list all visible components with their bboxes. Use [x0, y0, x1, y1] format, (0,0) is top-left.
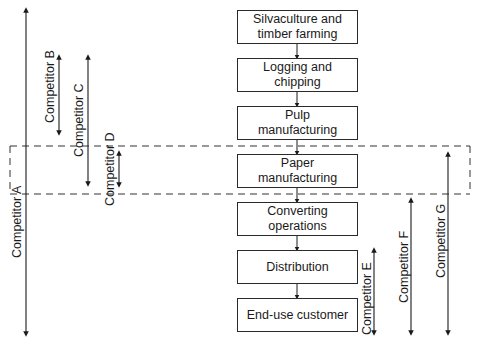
- competitor-f-label: Competitor F: [397, 231, 411, 303]
- stage-label: Logging and: [263, 60, 332, 75]
- stage-end-use-customer: End-use customer: [237, 298, 358, 332]
- stage-paper: Papermanufacturing: [237, 154, 358, 188]
- stage-label: Converting: [267, 204, 327, 219]
- competitor-c-label: Competitor C: [72, 83, 86, 157]
- stage-label: Paper: [258, 156, 337, 171]
- competitor-g-label: Competitor G: [434, 204, 448, 278]
- stage-label: operations: [267, 219, 327, 234]
- stage-converting: Convertingoperations: [237, 202, 358, 236]
- stage-pulp: Pulpmanufacturing: [237, 106, 358, 140]
- stage-label: manufacturing: [258, 123, 337, 138]
- stage-label: Distribution: [266, 260, 329, 275]
- stage-label: Pulp: [258, 108, 337, 123]
- stage-silvaculture: Silvaculture andtimber farming: [237, 10, 358, 44]
- stage-label: Silvaculture and: [253, 12, 342, 27]
- competitor-d-label: Competitor D: [103, 132, 117, 206]
- stage-label: manufacturing: [258, 171, 337, 186]
- competitor-b-label: Competitor B: [43, 50, 57, 123]
- stage-label: End-use customer: [247, 308, 348, 323]
- stage-distribution: Distribution: [237, 250, 358, 284]
- stage-label: chipping: [263, 75, 332, 90]
- stage-label: timber farming: [253, 27, 342, 42]
- competitor-a-label: Competitor A: [10, 186, 24, 258]
- stage-logging: Logging andchipping: [237, 58, 358, 92]
- competitor-e-label: Competitor E: [360, 262, 374, 335]
